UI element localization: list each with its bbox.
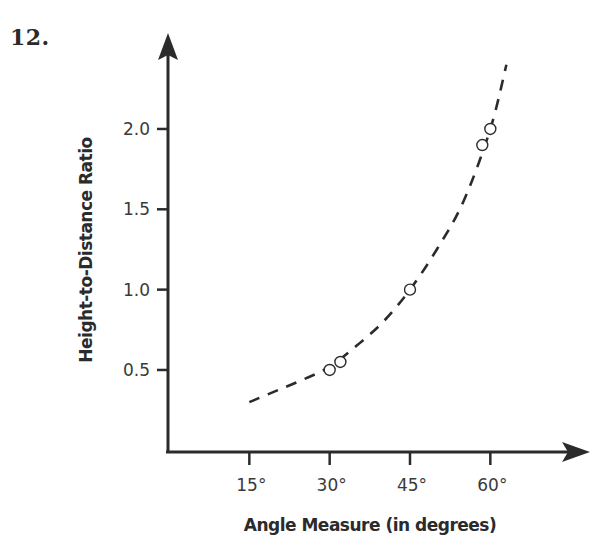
y-tick-label: 0.5	[123, 360, 150, 380]
x-axis	[166, 442, 590, 462]
data-point	[477, 140, 488, 151]
y-ticks: 0.51.01.52.0	[123, 119, 168, 380]
y-axis-title: Height-to-Distance Ratio	[76, 137, 96, 362]
x-tick-label: 15°	[236, 475, 266, 495]
trend-curve	[249, 65, 506, 402]
data-points	[324, 123, 496, 375]
data-point	[405, 284, 416, 295]
x-ticks: 15°30°45°60°	[236, 452, 507, 495]
data-point	[485, 123, 496, 134]
chart: 0.51.01.52.0 15°30°45°60° Height-to-Dist…	[0, 0, 615, 553]
x-tick-label: 60°	[477, 475, 507, 495]
x-tick-label: 45°	[397, 475, 427, 495]
trend-curve-path	[249, 65, 506, 402]
y-tick-label: 1.5	[123, 199, 150, 219]
data-point	[335, 356, 346, 367]
y-tick-label: 1.0	[123, 280, 150, 300]
y-axis	[158, 33, 178, 452]
x-axis-title: Angle Measure (in degrees)	[244, 515, 497, 535]
x-tick-label: 30°	[317, 475, 347, 495]
y-tick-label: 2.0	[123, 119, 150, 139]
data-point	[324, 364, 335, 375]
